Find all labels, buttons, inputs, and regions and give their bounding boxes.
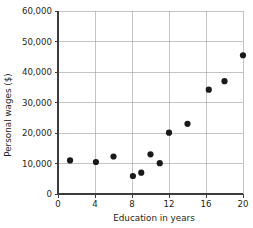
data-points [67,52,246,179]
x-axis-tick-labels: 048121620 [55,199,248,209]
x-tick-label: 4 [92,199,97,209]
gridlines [58,11,243,194]
axes [55,11,244,198]
y-tick-label: 50,000 [22,37,52,47]
data-point-marker [138,170,144,176]
data-point-marker [166,130,172,136]
data-point-marker [93,159,99,165]
y-axis-title: Personal wages ($) [3,73,13,157]
data-point-marker [110,153,116,159]
data-point-marker [157,160,163,166]
x-tick-label: 12 [164,199,175,209]
y-axis-tick-labels: 010,00020,00030,00040,00050,00060,000 [22,6,52,199]
data-point-marker [240,52,246,58]
x-axis-title: Education in years [113,213,195,223]
y-tick-label: 10,000 [22,159,52,169]
chart-canvas: 048121620 010,00020,00030,00040,00050,00… [0,0,253,228]
scatter-plot-figure: 048121620 010,00020,00030,00040,00050,00… [0,0,253,228]
x-tick-label: 0 [55,199,60,209]
x-tick-label: 20 [238,199,249,209]
x-tick-label: 8 [129,199,134,209]
y-tick-label: 0 [47,189,52,199]
data-point-marker [221,78,227,84]
data-point-marker [184,121,190,127]
y-tick-label: 40,000 [22,67,52,77]
data-point-marker [67,157,73,163]
y-tick-label: 30,000 [22,98,52,108]
data-point-marker [130,173,136,179]
data-point-marker [206,87,212,93]
data-point-marker [147,151,153,157]
y-tick-label: 60,000 [22,6,52,16]
y-tick-label: 20,000 [22,128,52,138]
x-tick-label: 16 [201,199,212,209]
